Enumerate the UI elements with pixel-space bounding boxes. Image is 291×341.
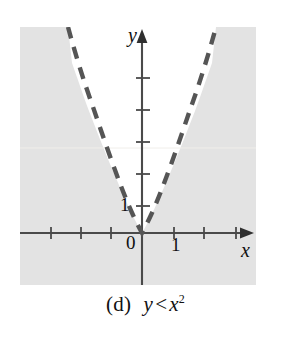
caption-exponent: 2 bbox=[179, 292, 185, 306]
y-axis-label: y bbox=[128, 24, 137, 47]
figure-caption: (d) y<x2 bbox=[0, 292, 291, 317]
y-axis-tick-label-1: 1 bbox=[120, 194, 130, 216]
x-axis-label: x bbox=[241, 239, 250, 262]
caption-label: (d) bbox=[106, 292, 131, 316]
plot-area: y x 0 1 1 bbox=[20, 27, 256, 285]
origin-label: 0 bbox=[126, 232, 136, 254]
graph-svg bbox=[20, 27, 256, 285]
caption-relation-lt: < bbox=[153, 292, 169, 316]
caption-variable-y: y bbox=[144, 292, 154, 316]
figure-panel: y x 0 1 1 (d) y<x2 bbox=[0, 0, 291, 341]
x-axis-tick-label-1: 1 bbox=[171, 234, 181, 256]
caption-variable-x: x bbox=[169, 292, 179, 316]
